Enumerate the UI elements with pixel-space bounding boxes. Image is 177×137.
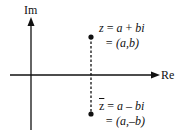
z-equation: z = a + bi bbox=[99, 22, 145, 34]
real-axis-label: Re bbox=[161, 69, 174, 81]
imaginary-axis-label: Im bbox=[24, 4, 37, 16]
z-conjugate-equation: z = a – bi bbox=[99, 100, 144, 112]
imaginary-axis-arrow-icon bbox=[28, 17, 35, 26]
point-z bbox=[88, 34, 93, 39]
z-conjugate-coordinates: = (a,–b) bbox=[105, 115, 145, 127]
z-coordinates: = (a,b) bbox=[105, 37, 139, 49]
point-z-conjugate bbox=[88, 111, 93, 116]
real-axis-arrow-icon bbox=[151, 72, 160, 79]
complex-plane-diagram bbox=[0, 0, 177, 137]
